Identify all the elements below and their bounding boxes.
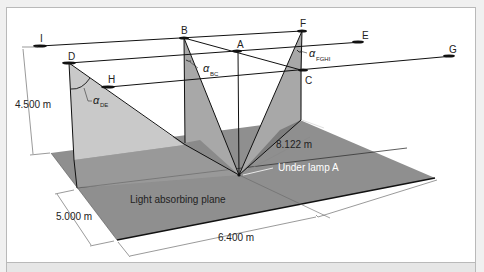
depth-dimension-label: 5.000 m [56, 211, 92, 222]
angle-DE-subscript: DE [100, 102, 108, 108]
lighting-diagram: I B F D A E H C G α DE α BC α FGHI [0, 0, 484, 272]
width-dimension-label: 6.400 m [218, 232, 254, 243]
lamp-label-G: G [449, 44, 457, 55]
lamp-label-E: E [362, 30, 369, 41]
lamp-label-A: A [237, 39, 244, 50]
lamp-H-icon [101, 85, 115, 88]
angle-DE-symbol: α [93, 94, 100, 106]
lamp-label-B: B [181, 25, 188, 36]
lamp-label-D: D [68, 51, 75, 62]
height-dimension-label: 4.500 m [15, 99, 51, 110]
under-lamp-label: Under lamp A [278, 162, 339, 173]
lamp-F-icon [297, 29, 307, 32]
lamp-B-icon [179, 36, 189, 39]
lamp-labels: I B F D A E H C G [40, 18, 457, 86]
lamp-label-H: H [108, 74, 115, 85]
angle-FGHI-symbol: α [309, 47, 316, 59]
plane-label: Light absorbing plane [130, 194, 226, 205]
lamp-fixtures [33, 29, 455, 88]
angle-BC-symbol: α [203, 62, 210, 74]
angle-BC-subscript: BC [210, 71, 219, 77]
distance-dimension-label: 8.122 m [276, 139, 312, 150]
lamp-rows [40, 31, 453, 87]
lamp-label-I: I [40, 33, 43, 44]
lamp-C-icon [298, 68, 308, 71]
angle-FGHI-subscript: FGHI [316, 56, 331, 62]
lamp-label-F: F [300, 18, 306, 29]
lamp-label-C: C [305, 75, 312, 86]
